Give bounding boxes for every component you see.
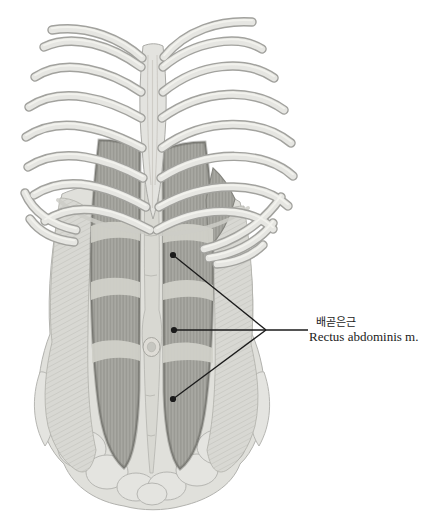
pointer-dot: [171, 327, 177, 333]
pelvis-lobe: [137, 483, 167, 505]
umbilicus: [143, 338, 160, 357]
muscle-label-latin: Rectus abdominis m.: [309, 329, 418, 344]
figure-canvas: 배곧은근 Rectus abdominis m.: [0, 0, 442, 521]
pointer-dot: [170, 252, 176, 258]
muscle-label-korean: 배곧은근: [316, 316, 356, 328]
tendinous-intersection: [163, 342, 213, 363]
pointer-dot: [170, 396, 176, 402]
